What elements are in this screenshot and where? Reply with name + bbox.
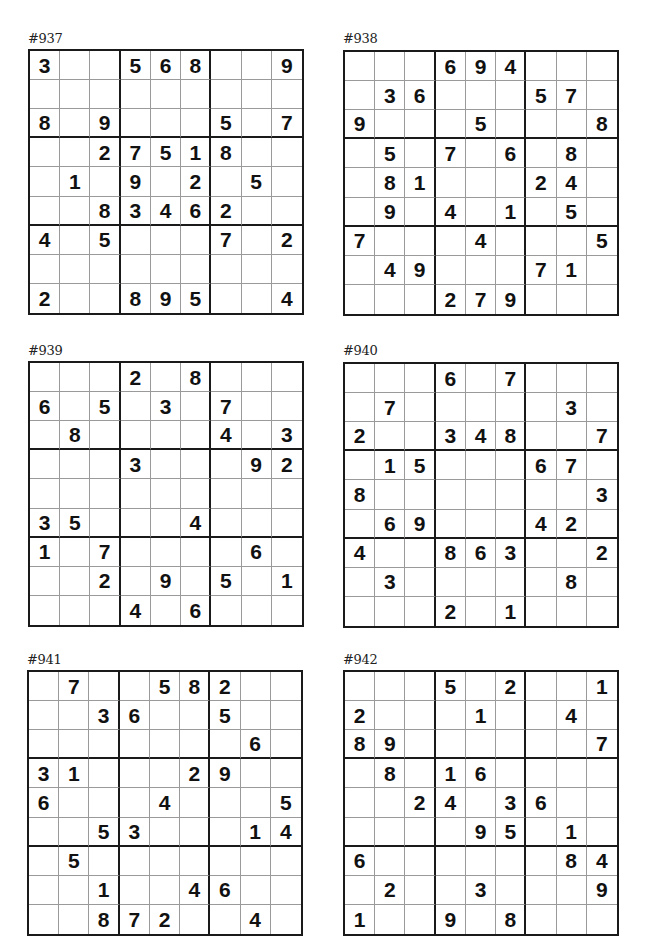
sudoku-cell: 8 [60, 421, 90, 450]
sudoku-cell [180, 788, 210, 817]
sudoku-cell: 6 [181, 596, 211, 625]
sudoku-cell [375, 285, 405, 314]
sudoku-cell [496, 876, 526, 905]
sudoku-cell [375, 364, 405, 393]
sudoku-cell [120, 759, 150, 788]
sudoku-cell: 2 [587, 539, 617, 568]
sudoku-cell [89, 788, 119, 817]
sudoku-cell: 2 [90, 138, 120, 167]
sudoku-cell [242, 80, 272, 109]
sudoku-cell: 9 [210, 759, 240, 788]
sudoku-cell: 5 [587, 227, 617, 256]
sudoku-cell: 5 [405, 451, 435, 480]
sudoku-cell [345, 393, 375, 422]
sudoku-cell [211, 479, 241, 508]
sudoku-cell [557, 52, 587, 81]
sudoku-grid: 5212148978162436951684239198 [343, 670, 619, 936]
sudoku-cell [150, 876, 180, 905]
sudoku-cell: 9 [405, 256, 435, 285]
puzzle-label: #938 [343, 31, 378, 46]
sudoku-cell [151, 109, 181, 138]
sudoku-cell: 8 [211, 138, 241, 167]
sudoku-cell [466, 393, 496, 422]
sudoku-cell [526, 52, 556, 81]
sudoku-cell [496, 81, 526, 110]
sudoku-cell [405, 393, 435, 422]
sudoku-cell: 6 [526, 451, 556, 480]
sudoku-cell [89, 672, 119, 701]
sudoku-cell [526, 759, 556, 788]
sudoku-cell: 2 [526, 168, 556, 197]
sudoku-cell: 7 [587, 730, 617, 759]
sudoku-cell: 5 [150, 672, 180, 701]
sudoku-cell [375, 110, 405, 139]
sudoku-cell: 8 [496, 905, 526, 934]
sudoku-cell [242, 596, 272, 625]
sudoku-cell [30, 450, 60, 479]
sudoku-cell [557, 422, 587, 451]
sudoku-cell [587, 905, 617, 934]
sudoku-cell [557, 539, 587, 568]
sudoku-cell [496, 759, 526, 788]
sudoku-cell [181, 421, 211, 450]
sudoku-cell [30, 421, 60, 450]
sudoku-cell: 1 [405, 168, 435, 197]
sudoku-cell [526, 539, 556, 568]
sudoku-cell: 8 [375, 759, 405, 788]
sudoku-cell: 7 [557, 81, 587, 110]
sudoku-cell: 9 [375, 198, 405, 227]
sudoku-cell [587, 256, 617, 285]
sudoku-cell [181, 392, 211, 421]
sudoku-cell: 4 [587, 847, 617, 876]
sudoku-cell: 7 [272, 109, 302, 138]
sudoku-cell [241, 876, 271, 905]
sudoku-cell [271, 876, 301, 905]
sudoku-cell: 2 [496, 672, 526, 701]
sudoku-cell: 5 [375, 139, 405, 168]
sudoku-cell [151, 363, 181, 392]
sudoku-cell: 7 [587, 422, 617, 451]
sudoku-cell: 8 [121, 284, 151, 313]
sudoku-cell [557, 905, 587, 934]
sudoku-cell [211, 363, 241, 392]
sudoku-cell [496, 168, 526, 197]
sudoku-cell [405, 730, 435, 759]
sudoku-cell: 9 [345, 110, 375, 139]
sudoku-cell [90, 80, 120, 109]
sudoku-cell: 8 [496, 422, 526, 451]
sudoku-cell [375, 422, 405, 451]
sudoku-cell [90, 255, 120, 284]
sudoku-cell [120, 847, 150, 876]
sudoku-cell [241, 788, 271, 817]
sudoku-cell [151, 450, 181, 479]
sudoku-cell: 5 [121, 51, 151, 80]
sudoku-cell: 7 [59, 672, 89, 701]
sudoku-cell: 6 [120, 701, 150, 730]
sudoku-cell [345, 568, 375, 597]
sudoku-cell [60, 450, 90, 479]
sudoku-cell [29, 672, 59, 701]
sudoku-cell [29, 876, 59, 905]
sudoku-cell [90, 284, 120, 313]
sudoku-cell: 6 [496, 139, 526, 168]
sudoku-cell: 6 [526, 788, 556, 817]
sudoku-cell [272, 538, 302, 567]
sudoku-cell [466, 168, 496, 197]
sudoku-cell [59, 818, 89, 847]
sudoku-cell [60, 109, 90, 138]
sudoku-cell: 3 [120, 818, 150, 847]
sudoku-cell [375, 539, 405, 568]
sudoku-cell [272, 509, 302, 538]
sudoku-cell [242, 421, 272, 450]
sudoku-cell [180, 905, 210, 934]
sudoku-cell [120, 788, 150, 817]
sudoku-cell [496, 227, 526, 256]
sudoku-grid: 286537843392354176295146 [28, 361, 304, 627]
sudoku-cell: 2 [180, 759, 210, 788]
sudoku-cell [121, 509, 151, 538]
sudoku-cell [241, 672, 271, 701]
sudoku-cell [151, 226, 181, 255]
sudoku-cell [211, 80, 241, 109]
sudoku-cell [271, 730, 301, 759]
sudoku-cell [121, 109, 151, 138]
